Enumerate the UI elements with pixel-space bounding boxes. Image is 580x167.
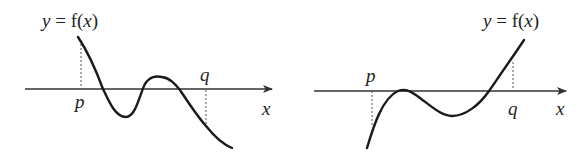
curve-label: y = f(x) <box>40 10 98 32</box>
function-curve <box>78 37 232 148</box>
curve-label: y = f(x) <box>481 10 539 32</box>
x-axis-label: x <box>555 98 565 119</box>
graph-left: y = f(x) p q x <box>25 10 272 148</box>
function-curve <box>367 40 524 148</box>
point-p-label: p <box>364 65 376 86</box>
point-p-label: p <box>73 91 85 112</box>
graph-right: y = f(x) p q x <box>314 10 566 148</box>
point-q-label: q <box>200 64 210 85</box>
two-function-graphs: y = f(x) p q x y = f(x) p q x <box>0 0 580 167</box>
point-q-label: q <box>508 98 518 119</box>
x-axis-label: x <box>261 98 271 119</box>
